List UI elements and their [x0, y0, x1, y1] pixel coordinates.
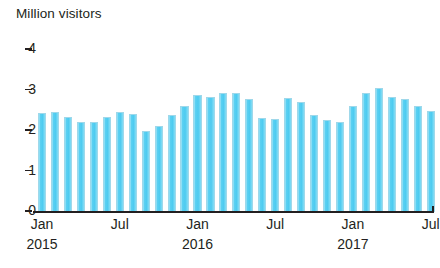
y-axis-tick-mark: [25, 170, 32, 172]
x-axis-tick-label-month: Jan: [342, 216, 365, 232]
bar: [206, 97, 214, 212]
x-axis-tick-label-year: 2015: [27, 236, 58, 252]
bar: [297, 102, 305, 212]
bar: [362, 93, 370, 212]
bar: [64, 117, 72, 212]
bar: [168, 115, 176, 212]
x-axis-tick-label-month: Jan: [31, 216, 54, 232]
bar: [142, 131, 150, 212]
x-axis-tick-label-year: 2016: [182, 236, 213, 252]
bar: [284, 98, 292, 212]
bar: [375, 88, 383, 212]
plot-area: [33, 44, 432, 212]
bar: [388, 97, 396, 212]
bar: [414, 106, 422, 212]
bar: [193, 95, 201, 212]
bar: [180, 106, 188, 212]
y-axis-tick-mark: [25, 89, 32, 91]
x-axis-tick-label-year: 2017: [337, 236, 368, 252]
y-axis-tick-mark: [25, 48, 32, 50]
bar: [51, 112, 59, 212]
bar: [129, 114, 137, 212]
y-axis-tick-mark: [25, 210, 32, 212]
bar: [155, 126, 163, 212]
y-axis-title: Million visitors: [16, 6, 102, 21]
x-axis-line: [33, 211, 434, 213]
bar: [77, 122, 85, 212]
bar: [90, 122, 98, 212]
bar: [349, 106, 357, 212]
y-axis-tick-mark: [25, 129, 32, 131]
x-axis-end-tick: [432, 206, 434, 213]
bar: [401, 99, 409, 212]
bar: [232, 93, 240, 212]
x-axis-tick-label-month: Jul: [111, 216, 129, 232]
x-axis-tick-label-month: Jul: [422, 216, 440, 232]
bar: [116, 112, 124, 212]
x-axis-tick-label-month: Jan: [186, 216, 209, 232]
bar: [323, 120, 331, 212]
bar: [219, 93, 227, 212]
bar: [38, 113, 46, 212]
bar: [258, 118, 266, 212]
bar: [336, 122, 344, 212]
bar: [310, 115, 318, 212]
bar: [245, 99, 253, 212]
bar: [271, 119, 279, 212]
bar: [427, 111, 435, 212]
bar: [103, 117, 111, 212]
x-axis-tick-label-month: Jul: [266, 216, 284, 232]
